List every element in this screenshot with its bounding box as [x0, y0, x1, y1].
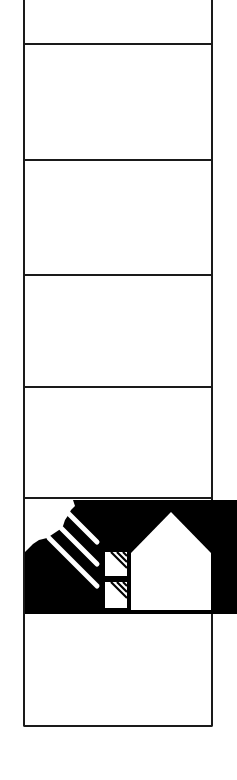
- cell-divider-1: [23, 43, 213, 45]
- column-frame: [23, 0, 213, 727]
- cell-divider-4: [23, 386, 213, 388]
- solar-house-banner: [25, 500, 237, 614]
- cell-divider-3: [23, 274, 213, 276]
- cell-divider-2: [23, 159, 213, 161]
- cell-divider-5: [23, 497, 213, 499]
